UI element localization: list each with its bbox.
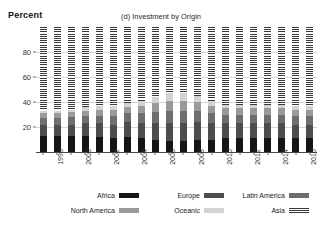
bar-segment-north-america — [166, 101, 173, 111]
bar-segment-africa — [236, 138, 243, 152]
stacked-bar[interactable] — [250, 27, 257, 152]
bar-segment-latin-america — [166, 111, 173, 124]
bar-segment-latin-america — [208, 113, 215, 123]
legend-item-north-america[interactable]: North America — [58, 207, 143, 214]
bar-segment-north-america — [180, 101, 187, 111]
bar-segment-africa — [68, 136, 75, 152]
stacked-bar[interactable] — [236, 27, 243, 152]
x-tick-mark — [183, 153, 184, 155]
bar-column[interactable] — [261, 27, 275, 152]
legend-item-asia[interactable]: Asia — [228, 207, 313, 214]
bar-column[interactable] — [162, 27, 176, 152]
bar-segment-africa — [124, 137, 131, 152]
bar-segment-latin-america — [138, 113, 145, 123]
bar-segment-asia — [278, 27, 285, 105]
bar-segment-north-america — [152, 103, 159, 112]
bar-column[interactable] — [50, 27, 64, 152]
legend-item-latin-america[interactable]: Latin America — [228, 192, 313, 199]
bar-column[interactable] — [219, 27, 233, 152]
bar-column[interactable] — [64, 27, 78, 152]
bar-column[interactable] — [106, 27, 120, 152]
bar-segment-latin-america — [68, 117, 75, 125]
stacked-bar[interactable] — [292, 27, 299, 152]
bar-segment-asia — [138, 27, 145, 101]
bar-segment-latin-america — [194, 111, 201, 122]
y-tick-mark — [33, 52, 36, 53]
bar-column[interactable] — [247, 27, 261, 152]
bar-segment-europe — [236, 123, 243, 138]
stacked-bar[interactable] — [96, 27, 103, 152]
bar-segment-asia — [236, 27, 243, 105]
bar-column[interactable] — [36, 27, 50, 152]
x-tick — [289, 153, 303, 185]
y-tick-label: 20 — [23, 123, 31, 132]
bar-segment-asia — [292, 27, 299, 106]
bar-column[interactable] — [78, 27, 92, 152]
bar-segment-latin-america — [264, 115, 271, 124]
bar-segment-africa — [40, 136, 47, 152]
bar-segment-europe — [68, 125, 75, 136]
bar-column[interactable] — [134, 27, 148, 152]
x-tick-label: 2004 — [141, 149, 148, 165]
stacked-bar[interactable] — [124, 27, 131, 152]
bar-segment-europe — [138, 123, 145, 138]
legend-swatch — [119, 208, 139, 213]
stacked-bar[interactable] — [222, 27, 229, 152]
bar-column[interactable] — [176, 27, 190, 152]
bar-segment-europe — [54, 125, 61, 136]
bar-segment-europe — [222, 123, 229, 138]
bar-column[interactable] — [148, 27, 162, 152]
bar-segment-latin-america — [250, 115, 257, 124]
bar-segment-oceanic — [166, 93, 173, 101]
stacked-bar[interactable] — [54, 27, 61, 152]
stacked-bar[interactable] — [166, 27, 173, 152]
x-tick — [261, 153, 275, 185]
stacked-bar[interactable] — [180, 27, 187, 152]
x-tick-mark — [99, 153, 100, 155]
bar-column[interactable] — [191, 27, 205, 152]
bar-column[interactable] — [303, 27, 317, 152]
stacked-bar[interactable] — [68, 27, 75, 152]
bar-segment-europe — [250, 123, 257, 138]
stacked-bar[interactable] — [306, 27, 313, 152]
stacked-bar[interactable] — [82, 27, 89, 152]
bar-segment-africa — [152, 140, 159, 153]
stacked-bar[interactable] — [110, 27, 117, 152]
bar-segment-latin-america — [306, 116, 313, 125]
bar-segment-asia — [110, 27, 117, 106]
stacked-bar[interactable] — [152, 27, 159, 152]
stacked-bar[interactable] — [138, 27, 145, 152]
y-tick-label: 60 — [23, 73, 31, 82]
bar-segment-europe — [194, 122, 201, 140]
stacked-bar[interactable] — [208, 27, 215, 152]
bar-column[interactable] — [205, 27, 219, 152]
x-tick-label: 2002 — [113, 149, 120, 165]
x-tick-mark — [295, 153, 296, 155]
bar-segment-europe — [208, 123, 215, 139]
x-axis-ticks: 1998200020022004200620082010201220142016 — [36, 153, 317, 185]
bar-segment-asia — [306, 27, 313, 106]
bar-column[interactable] — [275, 27, 289, 152]
bar-segment-asia — [124, 27, 131, 103]
x-tick: 2006 — [162, 153, 176, 185]
bar-segment-asia — [180, 27, 187, 93]
bar-column[interactable] — [233, 27, 247, 152]
bar-segment-europe — [124, 122, 131, 137]
legend-item-oceanic[interactable]: Oceanic — [143, 207, 228, 214]
bar-segment-latin-america — [96, 116, 103, 124]
legend-item-europe[interactable]: Europe — [143, 192, 228, 199]
x-tick-mark — [43, 153, 44, 155]
stacked-bar[interactable] — [264, 27, 271, 152]
legend-item-africa[interactable]: Africa — [58, 192, 143, 199]
bar-column[interactable] — [92, 27, 106, 152]
stacked-bar[interactable] — [40, 27, 47, 152]
bar-segment-latin-america — [292, 116, 299, 125]
bar-column[interactable] — [120, 27, 134, 152]
bar-segment-europe — [110, 125, 117, 139]
plot-area — [36, 27, 317, 152]
chart-legend: AfricaEuropeLatin AmericaNorth AmericaOc… — [58, 188, 313, 222]
stacked-bar[interactable] — [278, 27, 285, 152]
x-tick-label: 2006 — [169, 149, 176, 165]
bar-column[interactable] — [289, 27, 303, 152]
stacked-bar[interactable] — [194, 27, 201, 152]
